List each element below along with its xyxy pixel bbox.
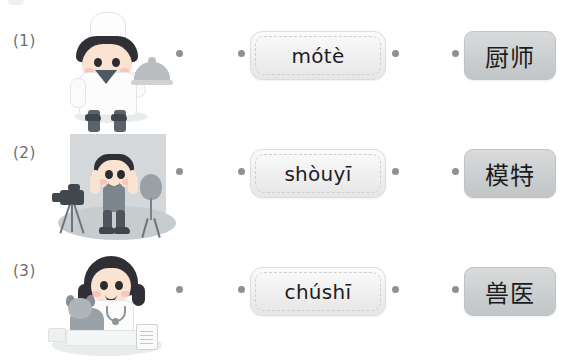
studio-light-pole [150, 198, 152, 220]
model-illustration [48, 132, 180, 244]
hanzi-box[interactable]: 厨师 [464, 31, 556, 80]
eye-left-icon [100, 281, 108, 290]
matching-row: (1) mótè [0, 6, 565, 126]
model-arm-left [90, 174, 100, 194]
supply-box [48, 328, 66, 342]
eye-right-icon [115, 281, 123, 290]
connector-dot-pinyin-right[interactable] [392, 286, 399, 293]
eye-left-icon [105, 170, 113, 179]
clipboard-line [140, 339, 153, 340]
connector-dot-image[interactable] [176, 168, 183, 175]
hanzi-text: 模特 [485, 156, 535, 191]
chef-shoe-left [85, 114, 101, 121]
connector-dot-image[interactable] [176, 50, 183, 57]
eye-right-icon [112, 58, 120, 67]
model-shoe-left [99, 227, 115, 234]
serving-dome-icon [134, 62, 170, 81]
connector-dot-hanzi[interactable] [452, 50, 459, 57]
worksheet-sheet: (1) mótè [0, 0, 565, 364]
page-corner-artifact [8, 0, 24, 5]
connector-dot-pinyin-left[interactable] [238, 286, 245, 293]
model-arm-right [128, 174, 138, 194]
connector-dot-hanzi[interactable] [452, 168, 459, 175]
hanzi-text: 厨师 [485, 38, 535, 73]
model-shoe-right [114, 227, 130, 234]
clipboard-line [140, 335, 153, 336]
connector-dot-pinyin-left[interactable] [238, 168, 245, 175]
chef-illustration [48, 10, 180, 122]
pinyin-text: chúshī [285, 280, 352, 304]
pinyin-text: shòuyī [284, 162, 351, 186]
clipboard-icon [136, 324, 158, 350]
eye-left-icon [94, 58, 102, 67]
blush-right [121, 291, 130, 297]
hanzi-box[interactable]: 模特 [464, 149, 556, 198]
connector-dot-pinyin-right[interactable] [392, 50, 399, 57]
studio-light-icon [140, 174, 162, 200]
chef-left-arm [70, 78, 86, 108]
camera-icon [60, 190, 84, 205]
pinyin-box[interactable]: mótè [250, 31, 386, 80]
model-strap-right [118, 184, 122, 196]
row-number-label: (1) [13, 32, 36, 50]
pinyin-box[interactable]: chúshī [250, 267, 386, 316]
pinyin-text: mótè [291, 44, 344, 68]
clipboard-line [140, 331, 153, 332]
connector-dot-pinyin-right[interactable] [392, 168, 399, 175]
model-strap-left [106, 184, 110, 196]
tripod-leg-center [71, 204, 73, 232]
matching-row: (2) [0, 128, 565, 246]
connector-dot-image[interactable] [176, 286, 183, 293]
vet-face [91, 268, 131, 304]
connector-dot-pinyin-left[interactable] [238, 50, 245, 57]
row-number-label: (2) [13, 144, 36, 162]
hanzi-box[interactable]: 兽医 [464, 267, 556, 316]
connector-dot-hanzi[interactable] [452, 286, 459, 293]
clipboard-line [140, 343, 153, 344]
pinyin-box[interactable]: shòuyī [250, 149, 386, 198]
examination-table [66, 330, 138, 346]
matching-row: (3) [0, 246, 565, 364]
chef-shoe-right [111, 114, 127, 121]
row-number-label: (3) [13, 262, 36, 280]
eye-right-icon [117, 170, 125, 179]
veterinarian-illustration [48, 250, 180, 362]
dog-head-icon [68, 298, 92, 319]
hanzi-text: 兽医 [485, 274, 535, 309]
